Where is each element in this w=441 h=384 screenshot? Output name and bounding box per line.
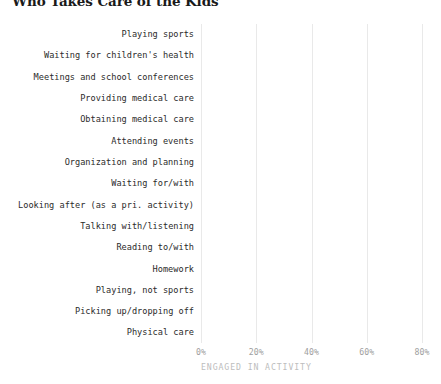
- gridline-20%: [256, 24, 257, 343]
- category-label: Talking with/listening: [0, 221, 194, 231]
- category-label: Homework: [0, 264, 194, 274]
- category-label: Attending events: [0, 136, 194, 146]
- gridline-60%: [367, 24, 368, 343]
- x-tick-label: 80%: [415, 347, 430, 357]
- x-tick-label: 40%: [304, 347, 319, 357]
- x-tick-label: 20%: [249, 347, 264, 357]
- y-axis-category-labels: Playing sportsWaiting for children's hea…: [0, 0, 194, 384]
- category-label: Looking after (as a pri. activity): [0, 200, 194, 210]
- plot-area: [201, 24, 422, 343]
- chart-figure: Who Takes Care of the Kids Playing sport…: [0, 0, 441, 384]
- x-axis-label: ENGAGED IN ACTIVITY: [201, 362, 312, 372]
- category-label: Organization and planning: [0, 157, 194, 167]
- gridline-0%: [201, 24, 202, 343]
- category-label: Meetings and school conferences: [0, 72, 194, 82]
- category-label: Playing, not sports: [0, 285, 194, 295]
- x-axis-tick-labels: 0%20%40%60%80%: [0, 347, 441, 359]
- category-label: Obtaining medical care: [0, 114, 194, 124]
- category-label: Reading to/with: [0, 242, 194, 252]
- category-label: Playing sports: [0, 29, 194, 39]
- x-tick-label: 60%: [359, 347, 374, 357]
- gridline-80%: [422, 24, 423, 343]
- category-label: Waiting for children's health: [0, 50, 194, 60]
- x-tick-label: 0%: [196, 347, 206, 357]
- gridline-40%: [312, 24, 313, 343]
- category-label: Providing medical care: [0, 93, 194, 103]
- category-label: Waiting for/with: [0, 178, 194, 188]
- category-label: Picking up/dropping off: [0, 306, 194, 316]
- category-label: Physical care: [0, 327, 194, 337]
